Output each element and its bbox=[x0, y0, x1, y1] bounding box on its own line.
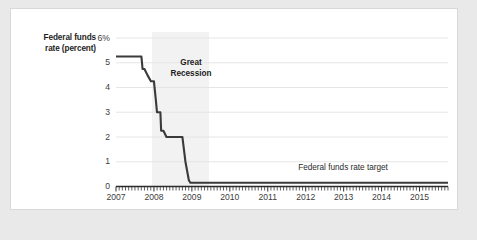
x-tick-label-2011: 2011 bbox=[248, 193, 288, 202]
x-tick-label-2009: 2009 bbox=[172, 193, 212, 202]
funds-rate-target-annotation: Federal funds rate target bbox=[282, 163, 404, 174]
great-recession-line-1: Great bbox=[160, 58, 222, 69]
y-tick-label-1: 1 bbox=[84, 157, 110, 166]
x-tick-label-2013: 2013 bbox=[324, 193, 364, 202]
recession-shaded-band bbox=[152, 32, 209, 187]
great-recession-line-2: Recession bbox=[160, 69, 222, 80]
y-tick-label-2: 2 bbox=[84, 133, 110, 142]
y-tick-label-6: 6% bbox=[84, 34, 110, 43]
y-axis-label-line-2: rate (percent) bbox=[24, 44, 96, 55]
x-tick-label-2014: 2014 bbox=[362, 193, 402, 202]
y-tick-label-3: 3 bbox=[84, 108, 110, 117]
y-tick-label-4: 4 bbox=[84, 83, 110, 92]
x-tick-label-2010: 2010 bbox=[210, 193, 250, 202]
x-tick-label-2008: 2008 bbox=[134, 193, 174, 202]
x-tick-label-2015: 2015 bbox=[400, 193, 440, 202]
y-tick-label-0: 0 bbox=[84, 182, 110, 191]
x-tick-label-2012: 2012 bbox=[286, 193, 326, 202]
great-recession-annotation: Great Recession bbox=[160, 58, 222, 79]
y-tick-label-5: 5 bbox=[84, 58, 110, 67]
x-tick-label-2007: 2007 bbox=[96, 193, 136, 202]
